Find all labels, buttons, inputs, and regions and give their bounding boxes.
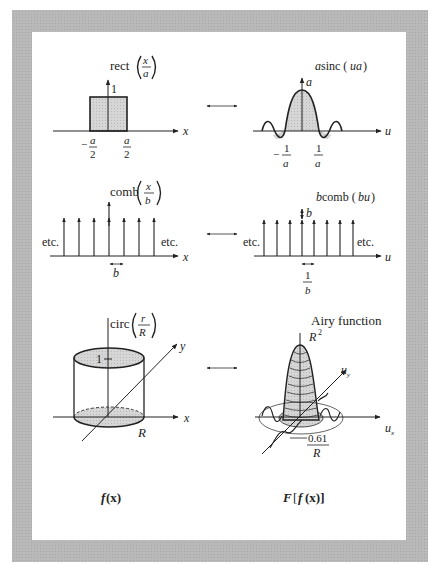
- svg-text:u: u: [385, 124, 391, 138]
- sinc-function-plot: a sinc ( ua ) a u − 1 a 1 a: [253, 59, 391, 169]
- column-label-fourier: F [ f (x)]: [282, 490, 325, 505]
- svg-text:a: a: [315, 157, 321, 169]
- svg-text:(x)]: (x)]: [305, 490, 325, 505]
- svg-text:1: 1: [111, 82, 117, 96]
- airy-function-plot: Airy function R 2 u x u: [255, 313, 395, 460]
- svg-text:etc.: etc.: [161, 235, 178, 249]
- svg-text:x: x: [182, 250, 189, 264]
- svg-text:etc.: etc.: [357, 235, 374, 249]
- svg-text:1: 1: [284, 142, 290, 154]
- svg-text:1: 1: [305, 269, 311, 281]
- svg-text:a: a: [306, 75, 312, 89]
- svg-text:x: x: [183, 411, 190, 425]
- svg-text:circ: circ: [110, 316, 130, 331]
- svg-text:y: y: [179, 339, 186, 353]
- svg-text:0.61: 0.61: [308, 432, 327, 444]
- fourier-pairs-figure: rect x a 1 x − a 2 a 2 a sinc ( ua ) a u…: [0, 0, 438, 574]
- svg-text:): ): [363, 59, 367, 73]
- svg-text:b: b: [306, 206, 312, 220]
- svg-text:comb: comb: [110, 184, 139, 199]
- svg-text:−: −: [81, 138, 87, 150]
- svg-text:R: R: [308, 330, 317, 344]
- svg-text:a: a: [283, 157, 289, 169]
- cylinder-top: [74, 348, 144, 368]
- svg-text:1: 1: [96, 352, 102, 366]
- svg-text:r: r: [141, 312, 146, 324]
- svg-text:sinc (: sinc (: [321, 59, 347, 73]
- svg-text:R: R: [138, 326, 146, 338]
- svg-text:x: x: [142, 54, 148, 66]
- svg-text:x: x: [145, 180, 151, 192]
- svg-text:etc.: etc.: [243, 235, 260, 249]
- svg-text:b: b: [145, 194, 151, 206]
- svg-text:b: b: [113, 266, 119, 280]
- svg-text:R: R: [137, 425, 146, 440]
- svg-text:−: −: [273, 148, 279, 160]
- rect-function-plot: rect x a 1 x − a 2 a 2: [53, 54, 189, 160]
- comb-impulses: [64, 202, 154, 256]
- svg-text:): ): [371, 190, 375, 204]
- rect-label: rect: [110, 58, 130, 73]
- svg-text:[: [: [293, 490, 297, 505]
- svg-text:x: x: [390, 429, 395, 437]
- svg-text:2: 2: [318, 328, 322, 337]
- svg-text:2: 2: [124, 148, 130, 160]
- column-label-spatial: f (x): [101, 490, 121, 505]
- svg-text:a: a: [124, 134, 130, 146]
- svg-text:y: y: [346, 371, 351, 379]
- svg-text:Airy function: Airy function: [311, 313, 382, 328]
- svg-text:comb (: comb (: [322, 190, 356, 204]
- svg-text:u: u: [385, 250, 391, 264]
- svg-text:ua: ua: [350, 59, 362, 73]
- svg-text:f: f: [298, 490, 304, 505]
- svg-text:(x): (x): [106, 490, 121, 505]
- comb-transform-plot: b comb ( bu ) u b etc. etc. 1 b: [243, 190, 391, 296]
- svg-text:2: 2: [90, 148, 96, 160]
- svg-text:a: a: [90, 134, 96, 146]
- svg-text:1: 1: [316, 142, 322, 154]
- svg-text:F: F: [282, 490, 292, 505]
- comb-function-plot: comb x b x etc. etc. b: [42, 180, 189, 280]
- circ-function-plot: circ r R 1 x y R: [53, 312, 190, 441]
- svg-text:b: b: [305, 284, 311, 296]
- svg-text:a: a: [143, 67, 149, 79]
- svg-text:R: R: [312, 446, 321, 460]
- svg-text:x: x: [182, 124, 189, 138]
- svg-text:bu: bu: [358, 190, 370, 204]
- svg-text:etc.: etc.: [42, 235, 59, 249]
